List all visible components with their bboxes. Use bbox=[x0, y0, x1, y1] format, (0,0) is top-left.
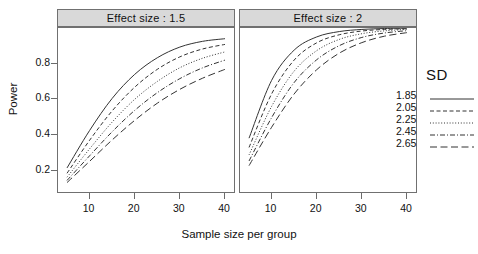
panel-strip-effect-size-2: Effect size : 2 bbox=[239, 9, 417, 27]
panel-effect-size-1-5 bbox=[57, 27, 235, 193]
legend-item-label: 2.65 bbox=[396, 137, 423, 149]
x-tick-label: 40 bbox=[391, 202, 421, 214]
panel-strip-label-left: Effect size : 1.5 bbox=[107, 12, 185, 24]
curve-sd-1-85 bbox=[249, 28, 407, 138]
x-tick-mark bbox=[406, 193, 407, 199]
curve-sd-2-65 bbox=[67, 69, 225, 182]
x-tick-label: 30 bbox=[346, 202, 376, 214]
legend-line-swatch bbox=[430, 114, 478, 124]
panel-strip-label-right: Effect size : 2 bbox=[294, 12, 363, 24]
panel-effect-size-2 bbox=[239, 27, 417, 193]
legend-item-sd-1-85: 1.85 bbox=[396, 89, 478, 100]
y-tick-mark bbox=[51, 134, 57, 135]
x-tick-label: 40 bbox=[209, 202, 239, 214]
y-tick-label: 0.8 bbox=[20, 56, 50, 68]
x-tick-mark bbox=[316, 193, 317, 199]
legend-item-label: 1.85 bbox=[396, 89, 423, 101]
curve-sd-2-25 bbox=[67, 52, 225, 177]
legend-item-label: 2.45 bbox=[396, 125, 423, 137]
legend-line-swatch bbox=[430, 102, 478, 112]
y-tick-mark bbox=[51, 98, 57, 99]
legend-item-sd-2-45: 2.45 bbox=[396, 125, 478, 136]
legend-item-label: 2.25 bbox=[396, 113, 423, 125]
curve-sd-1-85 bbox=[67, 39, 225, 168]
panel-right-curves bbox=[240, 28, 416, 192]
x-tick-label: 20 bbox=[119, 202, 149, 214]
legend-line-swatch bbox=[430, 90, 478, 100]
x-tick-mark bbox=[89, 193, 90, 199]
curve-sd-2-65 bbox=[249, 33, 407, 166]
panel-left-curves bbox=[58, 28, 234, 192]
y-tick-mark bbox=[51, 63, 57, 64]
y-tick-label: 0.6 bbox=[20, 91, 50, 103]
x-tick-mark bbox=[361, 193, 362, 199]
curve-sd-2-05 bbox=[249, 29, 407, 148]
y-tick-label: 0.4 bbox=[20, 127, 50, 139]
x-tick-mark bbox=[179, 193, 180, 199]
panel-strip-effect-size-1-5: Effect size : 1.5 bbox=[57, 9, 235, 27]
legend-item-sd-2-65: 2.65 bbox=[396, 137, 478, 148]
y-axis-title: Power bbox=[7, 64, 19, 134]
legend-item-label: 2.05 bbox=[396, 101, 423, 113]
legend: SD 1.852.052.252.452.65 bbox=[396, 66, 478, 149]
y-tick-label: 0.2 bbox=[20, 163, 50, 175]
legend-item-sd-2-25: 2.25 bbox=[396, 113, 478, 124]
x-tick-mark bbox=[224, 193, 225, 199]
x-tick-mark bbox=[134, 193, 135, 199]
curve-sd-2-45 bbox=[249, 31, 407, 161]
x-tick-label: 10 bbox=[74, 202, 104, 214]
legend-item-sd-2-05: 2.05 bbox=[396, 101, 478, 112]
legend-line-swatch bbox=[430, 126, 478, 136]
y-tick-mark bbox=[51, 170, 57, 171]
legend-title: SD bbox=[396, 66, 478, 83]
legend-rows: 1.852.052.252.452.65 bbox=[396, 89, 478, 148]
x-tick-mark bbox=[271, 193, 272, 199]
power-curve-chart: Effect size : 1.5 Effect size : 2 0.20.4… bbox=[0, 0, 478, 254]
x-tick-label: 10 bbox=[256, 202, 286, 214]
x-tick-label: 30 bbox=[164, 202, 194, 214]
x-axis-title: Sample size per group bbox=[0, 228, 478, 240]
x-tick-label: 20 bbox=[301, 202, 331, 214]
legend-line-swatch bbox=[430, 138, 478, 148]
curve-sd-2-05 bbox=[67, 44, 225, 173]
